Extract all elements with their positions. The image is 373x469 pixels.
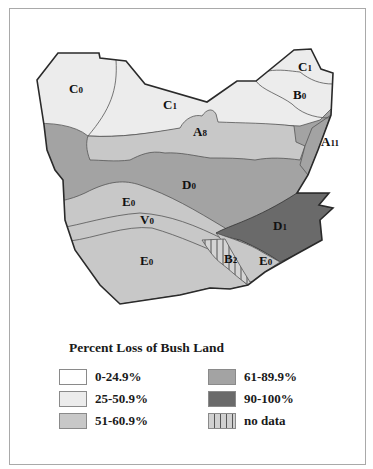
legend-label: 90-100%: [244, 391, 294, 407]
legend-label: no data: [244, 413, 286, 429]
bush-land-loss-map: C0 C1 C1 B0 A8 A11 D0 D1 E0 V0 E0 B2 E0: [0, 0, 373, 469]
swatch-no-data-hatched: [208, 413, 236, 429]
swatch-61-89-9: [208, 369, 236, 385]
legend-item-90-100: 90-100%: [208, 390, 294, 407]
swatch-25-50-9: [59, 391, 87, 407]
legend-item-no-data: no data: [208, 412, 286, 429]
legend-label: 0-24.9%: [95, 369, 142, 385]
legend-label: 51-60.9%: [95, 413, 148, 429]
legend-label: 25-50.9%: [95, 391, 148, 407]
swatch-0-24-9: [59, 369, 87, 385]
legend-item-25-50-9: 25-50.9%: [59, 390, 148, 407]
legend-item-61-89-9: 61-89.9%: [208, 368, 297, 385]
swatch-51-60-9: [59, 413, 87, 429]
legend-item-51-60-9: 51-60.9%: [59, 412, 148, 429]
label-a11: A11: [321, 134, 339, 149]
legend-label: 61-89.9%: [244, 369, 297, 385]
swatch-90-100: [208, 391, 236, 407]
legend-item-0-24-9: 0-24.9%: [59, 368, 142, 385]
legend-title: Percent Loss of Bush Land: [69, 340, 224, 356]
